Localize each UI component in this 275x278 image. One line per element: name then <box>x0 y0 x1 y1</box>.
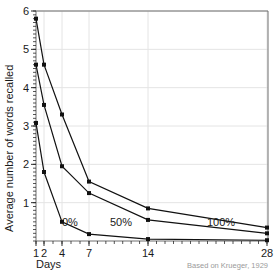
data-point-100pct-day14 <box>146 206 150 210</box>
data-point-0pct-day1 <box>34 121 38 125</box>
x-tick-label: 7 <box>86 247 92 259</box>
y-tick-label: 3 <box>23 120 29 132</box>
data-point-50pct-day14 <box>146 218 150 222</box>
data-point-50pct-day4 <box>60 164 64 168</box>
data-point-50pct-day7 <box>87 191 91 195</box>
y-tick-label: 2 <box>23 158 29 170</box>
data-point-50pct-day28 <box>265 231 269 235</box>
x-axis-title: Days <box>36 258 62 270</box>
source-credit: Based on Krueger, 1929 <box>187 261 268 270</box>
x-axis-tick-labels: 12471428 <box>33 247 273 259</box>
data-point-100pct-day4 <box>60 113 64 117</box>
series-annotation-0pct: 0% <box>62 216 78 228</box>
y-tick-label: 5 <box>23 43 29 55</box>
series-annotation-100pct: 100% <box>207 216 235 228</box>
series-annotation-50pct: 50% <box>110 216 132 228</box>
data-point-0pct-day14 <box>146 237 150 241</box>
data-point-100pct-day7 <box>87 180 91 184</box>
data-point-100pct-day28 <box>265 226 269 230</box>
x-tick-label: 14 <box>142 247 154 259</box>
chart-svg: 123456 12471428 0%50%100% Average number… <box>0 0 275 278</box>
data-point-0pct-day28 <box>265 238 269 242</box>
data-point-50pct-day2 <box>42 103 46 107</box>
data-point-50pct-day1 <box>34 63 38 67</box>
x-tick-label: 28 <box>261 247 273 259</box>
y-tick-label: 1 <box>23 197 29 209</box>
data-point-0pct-day2 <box>42 170 46 174</box>
data-point-100pct-day2 <box>42 63 46 67</box>
y-axis-title: Average number of words recalled <box>3 65 15 232</box>
y-axis-tick-labels: 123456 <box>23 5 29 209</box>
data-point-0pct-day7 <box>87 232 91 236</box>
y-tick-label: 6 <box>23 5 29 17</box>
data-point-100pct-day1 <box>34 17 38 21</box>
y-tick-label: 4 <box>23 82 29 94</box>
memory-retention-chart: 123456 12471428 0%50%100% Average number… <box>0 0 275 278</box>
